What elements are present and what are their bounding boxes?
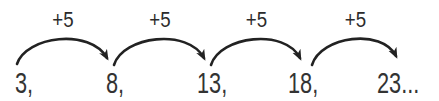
curved-arrow-right-icon bbox=[17, 39, 107, 64]
increment-label: +5 bbox=[121, 9, 199, 31]
number-sequence-diagram: +5 +5 +5 +5 3, 8, 13, 18, 23... bbox=[0, 0, 439, 101]
increment-label: +5 bbox=[218, 9, 295, 31]
increment-label: +5 bbox=[24, 9, 102, 31]
increment-label: +5 bbox=[319, 9, 393, 31]
sequence-term: 13, bbox=[197, 69, 227, 98]
curved-arrow-right-icon bbox=[114, 39, 204, 65]
curved-arrow-right-icon bbox=[211, 39, 300, 65]
curved-arrow-right-icon bbox=[312, 39, 396, 65]
sequence-term: 23... bbox=[377, 69, 419, 98]
sequence-term: 18, bbox=[288, 69, 318, 98]
sequence-term: 8, bbox=[106, 69, 124, 98]
sequence-term: 3, bbox=[15, 69, 33, 98]
